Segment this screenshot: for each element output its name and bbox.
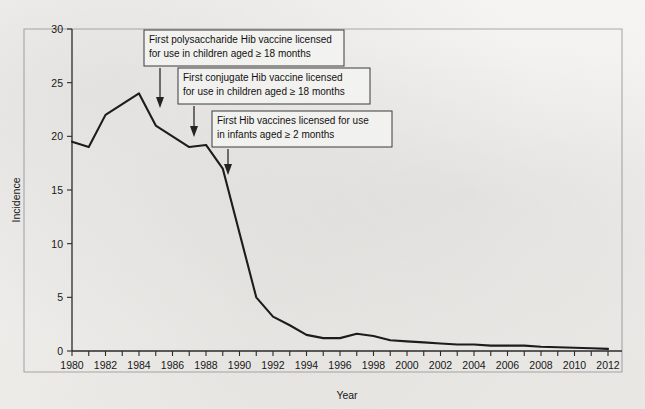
x-tick-label: 1990: [228, 359, 252, 371]
annotation-2-line-2: for use in children aged ≥ 18 months: [183, 86, 345, 97]
y-tick-label: 25: [51, 77, 63, 89]
y-tick-label: 10: [51, 238, 63, 250]
y-axis-ticks: 051015202530: [51, 23, 72, 357]
annotation-3-line-1: First Hib vaccines licensed for use: [217, 115, 369, 126]
x-tick-label: 1998: [362, 359, 386, 371]
annotation-3-line-2: in infants aged ≥ 2 months: [217, 129, 334, 140]
annotation-2-arrow-head: [190, 126, 198, 137]
x-tick-label: 1988: [194, 359, 218, 371]
x-tick-label: 2000: [395, 359, 419, 371]
x-axis-title: Year: [336, 389, 358, 401]
x-tick-label: 2006: [496, 359, 520, 371]
annotation-infants: First Hib vaccines licensed for use in i…: [212, 111, 392, 175]
annotation-3-arrow-head: [224, 164, 232, 175]
x-tick-label: 2010: [563, 359, 587, 371]
x-tick-label: 1986: [161, 359, 185, 371]
x-tick-label: 1982: [94, 359, 118, 371]
x-tick-label: 1996: [328, 359, 352, 371]
x-tick-label: 2012: [596, 359, 620, 371]
x-tick-label: 1994: [295, 359, 319, 371]
annotation-1-line-2: for use in children aged ≥ 18 months: [149, 48, 311, 59]
y-tick-label: 0: [57, 345, 63, 357]
x-tick-label: 1980: [60, 359, 84, 371]
y-tick-label: 30: [51, 23, 63, 35]
y-tick-label: 20: [51, 130, 63, 142]
x-axis-tick-labels: 1980198219841986198819901992199419961998…: [60, 359, 620, 371]
x-tick-label: 1992: [261, 359, 285, 371]
chart-svg: 051015202530 198019821984198619881990199…: [0, 0, 645, 409]
incidence-line-chart: 051015202530 198019821984198619881990199…: [0, 0, 645, 409]
annotation-1-line-1: First polysaccharide Hib vaccine license…: [149, 34, 332, 45]
x-tick-label: 2008: [529, 359, 553, 371]
annotation-1-arrow-head: [156, 97, 164, 108]
annotation-2-line-1: First conjugate Hib vaccine licensed: [183, 72, 343, 83]
x-tick-label: 1984: [127, 359, 151, 371]
y-tick-label: 5: [57, 291, 63, 303]
y-tick-label: 15: [51, 184, 63, 196]
x-tick-label: 2002: [429, 359, 453, 371]
x-tick-label: 2004: [462, 359, 486, 371]
x-axis-minor-ticks: [72, 351, 608, 356]
y-axis-title: Incidence: [10, 177, 22, 222]
